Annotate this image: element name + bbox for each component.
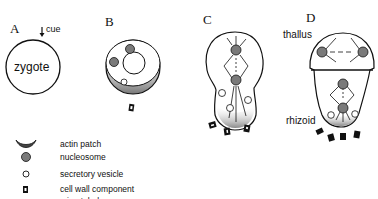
thallus-label: thallus [283,29,312,40]
legend-icons [16,140,36,193]
legend-label-actin-patch: actin patch [60,139,101,149]
panel-d-label: D [306,10,315,26]
legend-label-nucleosome: nucleosome [60,152,106,162]
zygote-label: zygote [14,60,49,74]
panel-a-label: A [10,21,19,37]
panel-b-label: B [105,14,114,30]
legend-label-cell-wall-component: cell wall component [60,184,134,194]
legend-label-microtubule: microtubule [60,196,104,199]
cue-label: cue [46,24,61,34]
rhizoid-label: rhizoid [286,115,315,126]
legend-label-secretory-vesicle: secretory vesicle [60,169,123,179]
panel-d-cell [310,33,374,142]
panel-b-cell [106,40,160,111]
panel-c-label: C [203,12,212,28]
panel-c-cell [206,32,263,135]
